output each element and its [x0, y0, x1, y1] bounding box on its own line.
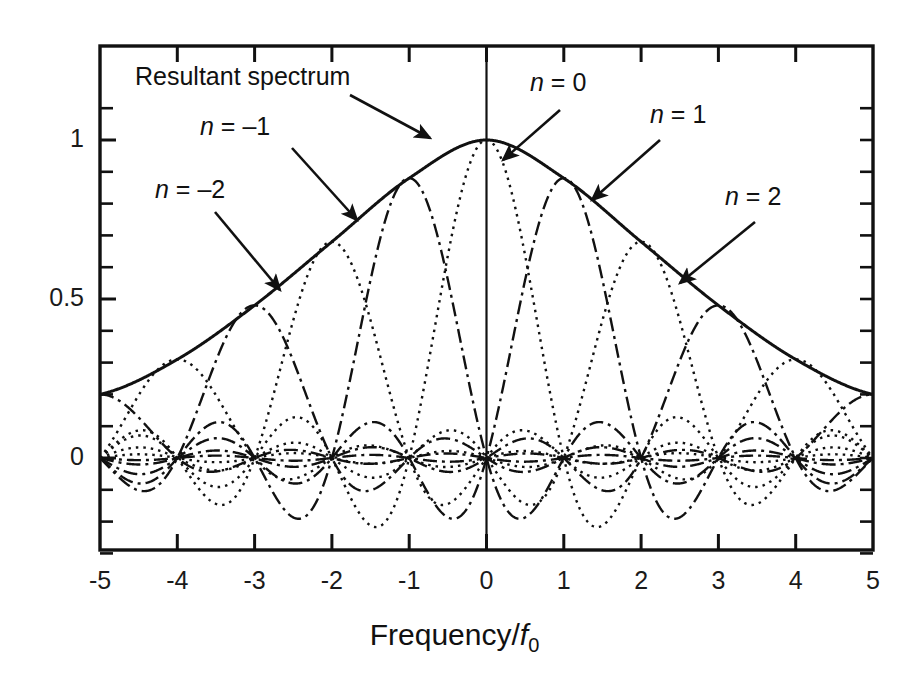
- y-tick-label: 0.5: [18, 283, 84, 312]
- x-axis-label: Frequency/f0: [0, 618, 909, 657]
- x-tick-label: 0: [457, 566, 517, 595]
- x-tick-label: -1: [379, 566, 439, 595]
- annotation-label: n = 1: [650, 100, 706, 129]
- x-tick-label: -5: [70, 566, 130, 595]
- annotation-arrow: [215, 212, 280, 290]
- x-tick-label: 3: [688, 566, 748, 595]
- annotation-arrow: [592, 140, 660, 200]
- annotation-label: Resultant spectrum: [135, 62, 350, 91]
- x-tick-label: 1: [534, 566, 594, 595]
- annotation-arrow: [350, 95, 430, 138]
- y-tick-label: 0: [18, 442, 84, 471]
- annotation-arrow: [503, 110, 560, 160]
- annotation-label: n = 2: [725, 182, 781, 211]
- x-tick-label: -4: [147, 566, 207, 595]
- annotation-arrow: [292, 148, 357, 220]
- x-tick-label: 5: [843, 566, 903, 595]
- x-tick-label: 4: [766, 566, 826, 595]
- x-tick-label: -3: [225, 566, 285, 595]
- x-tick-label: -2: [302, 566, 362, 595]
- annotation-label: n = 0: [530, 68, 586, 97]
- annotation-label: n = –1: [200, 112, 270, 141]
- spectrum-figure: 00.51 -5-4-3-2-1012345 Resultant spectru…: [0, 0, 909, 682]
- x-tick-label: 2: [611, 566, 671, 595]
- annotation-arrow: [680, 222, 755, 283]
- y-tick-label: 1: [18, 124, 84, 153]
- annotation-label: n = –2: [155, 175, 225, 204]
